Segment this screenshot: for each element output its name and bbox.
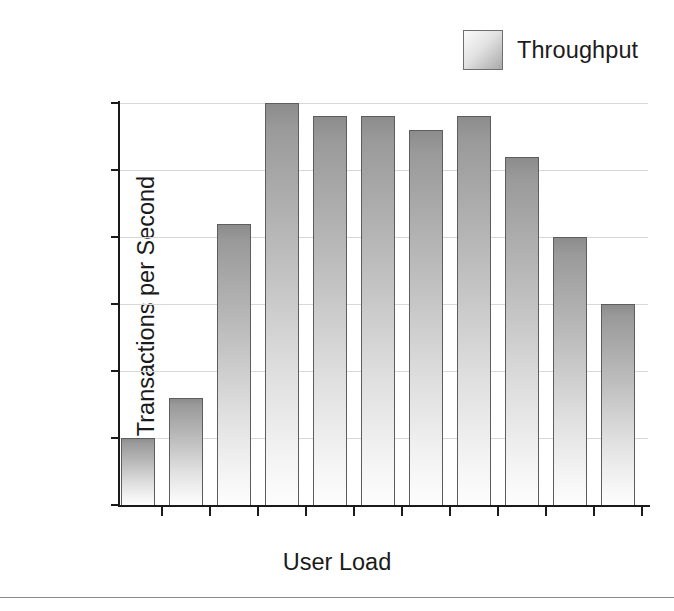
bar xyxy=(313,116,347,505)
x-tick-mark xyxy=(401,505,403,516)
chart-figure: Throughput Transactions per Second 05101… xyxy=(0,0,674,611)
x-tick-mark xyxy=(497,505,499,516)
x-tick-mark xyxy=(545,505,547,516)
plot-area: 051015202530 151540160640 xyxy=(120,103,648,505)
throughput-swatch-icon xyxy=(463,30,503,70)
x-tick-mark xyxy=(593,505,595,516)
bar xyxy=(265,103,299,505)
x-axis-line xyxy=(118,505,650,508)
y-tick-mark xyxy=(111,102,120,104)
x-tick-mark xyxy=(641,505,643,516)
bar xyxy=(169,398,203,505)
y-tick-mark xyxy=(111,169,120,171)
bar xyxy=(505,157,539,505)
bar xyxy=(601,304,635,505)
page-divider xyxy=(0,597,674,598)
bar xyxy=(217,224,251,505)
bar-series xyxy=(120,103,648,505)
y-tick-mark xyxy=(111,504,120,506)
bar xyxy=(553,237,587,505)
legend-entry-label: Throughput xyxy=(517,37,638,64)
x-tick-mark xyxy=(449,505,451,516)
x-tick-mark xyxy=(209,505,211,516)
x-tick-mark xyxy=(161,505,163,516)
x-tick-mark xyxy=(305,505,307,516)
y-tick-mark xyxy=(111,437,120,439)
bar xyxy=(361,116,395,505)
x-axis-title: User Load xyxy=(0,549,674,576)
y-tick-mark xyxy=(111,236,120,238)
x-tick-mark xyxy=(257,505,259,516)
x-tick-mark xyxy=(353,505,355,516)
chart-legend: Throughput xyxy=(463,30,638,70)
y-tick-mark xyxy=(111,303,120,305)
bar xyxy=(121,438,155,505)
bar xyxy=(457,116,491,505)
y-tick-mark xyxy=(111,370,120,372)
bar xyxy=(409,130,443,505)
